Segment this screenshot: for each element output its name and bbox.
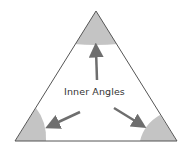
top-angle-wedge bbox=[74, 11, 118, 45]
arrow-to-bottom-right-angle bbox=[114, 108, 140, 124]
arrow-to-top-angle bbox=[96, 50, 97, 80]
bottom-left-angle-wedge bbox=[15, 108, 46, 141]
arrow-to-bottom-left-angle bbox=[52, 112, 80, 125]
bottom-right-angle-wedge bbox=[140, 115, 177, 141]
inner-angles-diagram bbox=[0, 0, 189, 159]
inner-angles-label: Inner Angles bbox=[0, 86, 189, 97]
